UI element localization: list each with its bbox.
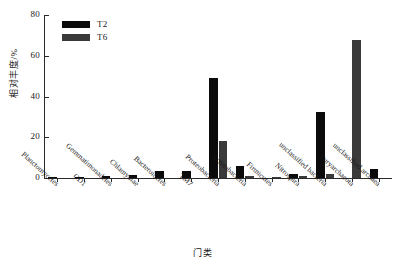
y-tick-label: 0 [10,173,40,182]
legend-swatch-t6 [62,34,90,41]
bar-chart-figure: 020406080 PlanctomycetesOD1Gemmatimonade… [0,0,406,266]
bar-t2-unclassified-bacteria [316,112,325,178]
legend-swatch-t2 [62,21,90,28]
bar-t6-actinobacteria [245,176,254,178]
bar-t6-unclassified-bacteria [326,174,335,178]
legend-item-t2: T2 [62,18,108,31]
bar-t6-firmicutes [272,177,281,178]
chart-legend: T2 T6 [62,18,108,44]
x-axis-title: 门类 [0,248,406,258]
legend-label-t6: T6 [97,33,108,42]
y-tick-label: 80 [10,10,40,19]
y-tick-label: 20 [10,132,40,141]
legend-label-t2: T2 [97,20,108,29]
y-axis-title: 相对丰度/% [9,33,19,113]
legend-item-t6: T6 [62,31,108,44]
bar-t6-nitrospira [299,176,308,178]
